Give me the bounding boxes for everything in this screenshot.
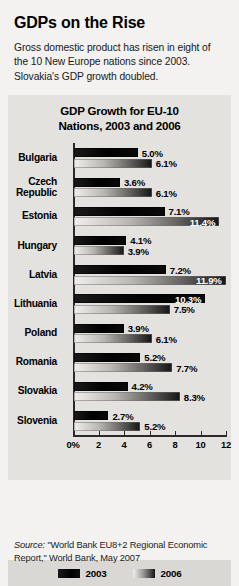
- bar-2006: [74, 188, 152, 197]
- x-tick-label: 0%: [67, 439, 80, 450]
- x-tick-label: 2: [96, 439, 101, 450]
- x-tick-label: 6: [147, 439, 152, 450]
- bar-2003: [74, 324, 124, 333]
- bar-value-label: 7.7%: [176, 362, 197, 373]
- x-tick: [124, 431, 125, 435]
- bar-group: Lithuania10.3%7.5%: [8, 289, 231, 318]
- bar-row: 2.7%: [74, 411, 231, 420]
- legend-item-2006: 2006: [133, 568, 182, 579]
- infographic-root: GDPs on the Rise Gross domestic product …: [0, 0, 239, 586]
- legend-swatch-2003-icon: [58, 569, 80, 578]
- bar-row: 6.1%: [74, 159, 231, 168]
- x-tick: [150, 431, 151, 435]
- x-tick-label: 10: [196, 439, 206, 450]
- bar-value-label: 6.1%: [156, 333, 177, 344]
- chart-title: GDP Growth for EU-10 Nations, 2003 and 2…: [12, 104, 227, 133]
- bar-value-label: 11.4%: [190, 216, 216, 227]
- bar-row: 10.3%: [74, 294, 231, 303]
- bar-group: Hungary4.1%3.9%: [8, 231, 231, 260]
- bar-value-label: 7.1%: [169, 206, 190, 217]
- bar-value-label: 5.2%: [144, 352, 165, 363]
- bar-value-label: 8.3%: [184, 391, 205, 402]
- legend-item-2003: 2003: [58, 568, 107, 579]
- bar-2003: [74, 411, 108, 420]
- bar-2006: [74, 422, 140, 431]
- bar-2006: [74, 363, 172, 372]
- bar-2006: [74, 246, 124, 255]
- bar-2006: [74, 392, 180, 401]
- source-prefix: Source:: [14, 540, 45, 550]
- chart-panel: GDP Growth for EU-10 Nations, 2003 and 2…: [8, 95, 231, 480]
- category-label: Poland: [25, 327, 57, 338]
- bar-value-label: 4.2%: [132, 381, 153, 392]
- bar-2003: [74, 382, 128, 391]
- bar-group: Estonia7.1%11.4%: [8, 202, 231, 231]
- bar-row: 3.9%: [74, 324, 231, 333]
- bar-row: 5.0%: [74, 148, 231, 157]
- bar-value-label: 10.3%: [175, 293, 201, 304]
- bar-groups: Bulgaria5.0%6.1%CzechRepublic3.6%6.1%Est…: [8, 143, 231, 435]
- bar-2006: [74, 305, 170, 314]
- bar-group: Poland3.9%6.1%: [8, 319, 231, 348]
- category-label: Bulgaria: [18, 152, 57, 163]
- bar-2003: [74, 178, 120, 187]
- x-tick: [99, 431, 100, 435]
- bar-row: 11.9%: [74, 276, 231, 285]
- category-label: Hungary: [17, 240, 57, 251]
- bar-2006: [74, 159, 152, 168]
- bar-value-label: 3.9%: [128, 323, 149, 334]
- bar-group: Romania5.2%7.7%: [8, 348, 231, 377]
- bar-row: 5.2%: [74, 353, 231, 362]
- plot-area: Bulgaria5.0%6.1%CzechRepublic3.6%6.1%Est…: [8, 143, 231, 443]
- bar-row: 6.1%: [74, 334, 231, 343]
- bar-value-label: 5.2%: [144, 421, 165, 432]
- category-label: Lithuania: [14, 298, 57, 309]
- category-label: Romania: [16, 357, 57, 368]
- bar-2006: [74, 334, 152, 343]
- page-title: GDPs on the Rise: [14, 14, 225, 32]
- bar-value-label: 6.1%: [156, 158, 177, 169]
- category-label: Latvia: [29, 269, 57, 280]
- bar-value-label: 11.9%: [196, 275, 222, 286]
- x-tick-label: 8: [173, 439, 178, 450]
- legend-label-2003: 2003: [86, 568, 107, 579]
- category-label: Slovenia: [17, 415, 57, 426]
- bar-row: 4.1%: [74, 236, 231, 245]
- bar-value-label: 7.2%: [170, 264, 191, 275]
- bar-group: Slovakia4.2%8.3%: [8, 377, 231, 406]
- header: GDPs on the Rise Gross domestic product …: [0, 0, 239, 84]
- x-tick-label: 4: [122, 439, 127, 450]
- bar-group: Latvia7.2%11.9%: [8, 260, 231, 289]
- bar-row: 8.3%: [74, 392, 231, 401]
- bar-2003: [74, 353, 140, 362]
- bar-row: 7.1%: [74, 207, 231, 216]
- bar-2003: [74, 265, 166, 274]
- x-axis-line: [73, 435, 227, 437]
- category-label: Estonia: [22, 211, 57, 222]
- bar-2003: [74, 236, 126, 245]
- source-note: Source: "World Bank EU8+2 Regional Econo…: [14, 539, 227, 565]
- bar-value-label: 5.0%: [142, 147, 163, 158]
- x-tick-label: 12: [221, 439, 231, 450]
- bar-value-label: 3.6%: [124, 177, 145, 188]
- bar-value-label: 4.1%: [130, 235, 151, 246]
- x-tick: [175, 431, 176, 435]
- bar-value-label: 3.9%: [128, 245, 149, 256]
- bar-row: 5.2%: [74, 422, 231, 431]
- bar-row: 3.9%: [74, 246, 231, 255]
- x-tick: [73, 431, 74, 435]
- bar-value-label: 7.5%: [174, 304, 195, 315]
- bar-group: Bulgaria5.0%6.1%: [8, 143, 231, 172]
- x-tick: [226, 431, 227, 435]
- bar-row: 4.2%: [74, 382, 231, 391]
- category-label: CzechRepublic: [16, 176, 57, 198]
- bar-value-label: 2.7%: [112, 410, 133, 421]
- bar-group: Slovenia2.7%5.2%: [8, 406, 231, 435]
- legend-label-2006: 2006: [161, 568, 182, 579]
- bar-row: 7.5%: [74, 305, 231, 314]
- chart-title-line-2: Nations, 2003 and 2006: [12, 119, 227, 133]
- bar-value-label: 6.1%: [156, 187, 177, 198]
- legend-swatch-2006-icon: [133, 569, 155, 578]
- bar-row: 11.4%: [74, 217, 231, 226]
- bar-row: 7.7%: [74, 363, 231, 372]
